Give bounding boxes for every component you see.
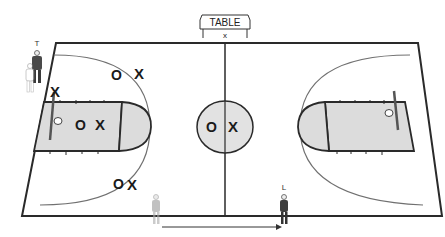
defense-marker: X — [134, 65, 144, 82]
defense-marker: X — [228, 118, 238, 135]
offense-marker: O — [113, 176, 124, 192]
left-hoop — [54, 118, 62, 125]
basketball-court-diagram: TABLE x — [0, 0, 445, 237]
referee-trail-label: T — [35, 39, 40, 48]
defense-marker: X — [127, 176, 137, 193]
defense-marker: X — [50, 83, 60, 100]
referee-lead-label: L — [282, 183, 287, 192]
lead-movement-arrow — [162, 224, 282, 230]
offense-marker: O — [206, 119, 217, 135]
offense-marker: O — [75, 117, 86, 133]
right-key — [325, 102, 414, 151]
right-hoop — [385, 110, 393, 117]
offense-marker: O — [111, 67, 122, 83]
table-label: TABLE — [210, 17, 241, 28]
defense-marker: X — [95, 116, 105, 133]
table-marker: x — [223, 31, 227, 40]
scorers-table: TABLE x — [200, 15, 250, 40]
